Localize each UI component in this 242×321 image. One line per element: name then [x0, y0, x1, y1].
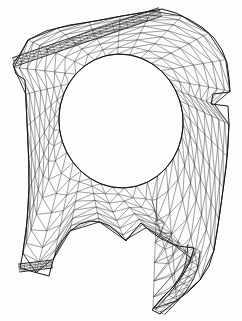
mesh-edge	[82, 39, 97, 49]
mesh-edge	[41, 261, 47, 262]
mesh-edge	[55, 115, 59, 118]
mesh-edge	[45, 110, 49, 123]
mesh-edge	[94, 36, 102, 37]
mesh-edge	[76, 193, 94, 201]
mesh-edge	[44, 124, 49, 132]
mesh-edge	[22, 62, 29, 64]
mesh-edge	[195, 215, 202, 254]
mesh-edge	[99, 28, 107, 29]
mesh-edge	[178, 179, 183, 199]
mesh-edge	[79, 171, 81, 181]
mesh-edge	[141, 51, 148, 58]
mesh-edge	[55, 72, 65, 73]
mesh-edge	[209, 141, 211, 166]
mesh-edge	[34, 57, 42, 58]
mesh-edge	[54, 130, 60, 131]
mesh-edge	[61, 210, 74, 225]
mesh-edge	[200, 178, 201, 215]
mesh-edge	[112, 24, 120, 25]
mesh-edge	[187, 245, 188, 252]
mesh-edge	[49, 53, 56, 55]
mesh-edge	[166, 168, 168, 191]
mesh-edge	[102, 34, 109, 36]
mesh-edge	[156, 222, 164, 224]
mesh-edge	[51, 105, 55, 115]
mesh-edge	[40, 115, 45, 132]
mesh-edge	[105, 187, 112, 194]
mesh-edge	[168, 295, 173, 298]
mesh-edge	[189, 44, 212, 62]
mesh-edge	[46, 46, 54, 47]
mesh-edge	[92, 184, 101, 186]
mesh-edge	[49, 142, 54, 145]
mesh-edge	[45, 71, 55, 72]
mesh-edge	[26, 93, 30, 94]
mesh-edge	[121, 27, 129, 28]
mesh-edge	[155, 37, 162, 44]
mesh-edge	[61, 73, 65, 86]
mesh-edge	[28, 40, 33, 42]
mesh-edge	[41, 89, 47, 91]
mesh-edge	[187, 183, 191, 219]
mesh-edge	[43, 238, 58, 247]
mesh-edge	[194, 63, 204, 65]
mesh-edge	[54, 50, 62, 51]
mesh-edge	[220, 60, 226, 61]
mesh-edge	[199, 251, 200, 258]
mesh-edge	[72, 213, 97, 219]
mesh-edge	[140, 17, 148, 18]
mesh-edge	[125, 19, 126, 22]
mesh-edge	[180, 44, 189, 49]
mesh-edge	[154, 16, 155, 19]
mesh-edge	[168, 191, 170, 213]
mesh-edge	[36, 213, 51, 215]
mesh-edge	[59, 42, 67, 43]
mesh-edge	[113, 26, 114, 29]
mesh-edge	[149, 211, 155, 216]
mesh-edge	[209, 166, 211, 202]
mesh-edge	[220, 182, 224, 188]
mesh-edge	[61, 173, 69, 179]
mesh-edge	[223, 152, 227, 156]
mesh-edge	[198, 269, 200, 280]
mesh-edge	[35, 70, 40, 91]
mesh-edge	[51, 87, 54, 105]
mesh-edge	[56, 194, 66, 196]
mesh-edge	[147, 16, 154, 18]
mesh-edge	[141, 20, 142, 23]
mesh-edge	[106, 29, 114, 30]
mesh-edge	[127, 25, 135, 26]
mesh-edge	[139, 15, 140, 18]
mesh-edge	[19, 266, 25, 267]
mesh-edge	[212, 141, 215, 175]
mesh-edge	[133, 198, 146, 199]
mesh-edge	[153, 13, 161, 14]
mesh-edge	[190, 269, 196, 272]
mesh-edge	[65, 73, 76, 74]
mesh-edge	[161, 233, 172, 234]
mesh-edge	[54, 87, 57, 100]
mesh-edge	[171, 53, 183, 67]
mesh-edge	[188, 135, 190, 150]
mesh-edge	[44, 142, 49, 154]
mesh-edge	[109, 201, 124, 203]
mesh-edge	[215, 175, 216, 213]
mesh-edge	[183, 183, 191, 200]
mesh-edge	[129, 51, 148, 55]
mesh-edge	[103, 50, 106, 56]
mesh-edge	[162, 37, 189, 44]
mesh-edge	[172, 276, 174, 285]
mesh-edge	[35, 261, 41, 262]
mesh-edge	[124, 188, 133, 198]
mesh-edge	[197, 36, 204, 40]
mesh-edge	[123, 224, 143, 235]
mesh-edge	[101, 34, 102, 37]
mesh-edge	[219, 119, 223, 152]
mesh-edge	[107, 32, 108, 35]
mesh-canvas	[0, 0, 242, 321]
mesh-edge	[19, 68, 26, 69]
mesh-edge	[73, 40, 81, 41]
mesh-edge	[40, 110, 45, 115]
mesh-edge	[48, 52, 49, 55]
mesh-edge	[38, 190, 42, 198]
